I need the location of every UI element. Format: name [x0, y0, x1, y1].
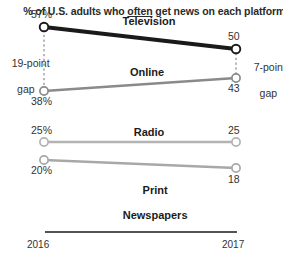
value-television-2016: 57% — [31, 9, 52, 21]
series-label-print-newspapers: Print Newspapers — [96, 172, 202, 234]
annotation-gap-left-line1: 19-point — [12, 57, 50, 69]
series-line-television — [44, 27, 236, 49]
series-label-online: Online — [104, 66, 190, 78]
marker-print-newspapers-2016 — [40, 156, 48, 164]
marker-online-2016 — [40, 87, 48, 95]
marker-radio-2016 — [40, 138, 48, 146]
series-label-radio: Radio — [106, 126, 192, 138]
series-label-television: Television — [106, 15, 192, 27]
annotation-gap-right-line1: 7-point — [254, 61, 283, 73]
annotation-gap-left: 19-point gap — [0, 44, 40, 110]
marker-print-newspapers-2017 — [232, 164, 240, 172]
series-label-print-line1: Print — [143, 184, 168, 196]
marker-online-2017 — [232, 74, 240, 82]
series-line-online — [44, 78, 236, 91]
value-print-newspapers-2017: 18 — [228, 174, 240, 186]
marker-television-2017 — [232, 45, 241, 54]
value-print-newspapers-2016: 20% — [31, 165, 52, 177]
slope-chart: % of U.S. adults who often get news on e… — [0, 0, 283, 258]
annotation-gap-right-line2: gap — [260, 87, 278, 99]
value-online-2017: 43 — [228, 83, 240, 95]
value-television-2017: 50 — [228, 31, 240, 43]
value-radio-2017: 25 — [228, 125, 240, 137]
annotation-gap-left-line2: gap — [17, 83, 35, 95]
x-tick-label-2017: 2017 — [222, 239, 244, 250]
x-tick-label-2016: 2016 — [27, 239, 49, 250]
series-line-print-newspapers — [44, 160, 236, 168]
series-label-print-line2: Newspapers — [123, 209, 188, 221]
value-radio-2016: 25% — [31, 125, 52, 137]
marker-radio-2017 — [232, 138, 240, 146]
annotation-gap-right: 7-point gap — [242, 48, 283, 114]
